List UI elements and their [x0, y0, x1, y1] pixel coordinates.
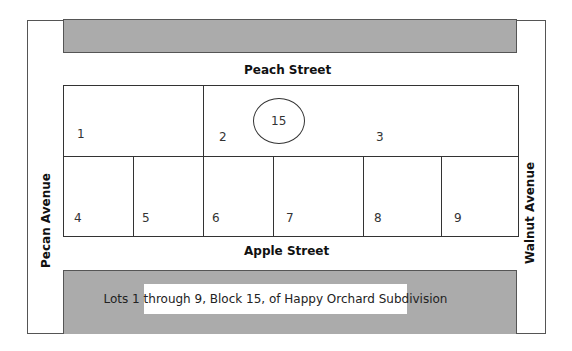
lot-divider-8-9 — [441, 156, 442, 236]
lot-4: 4 — [74, 211, 82, 225]
lot-divider-5-6 — [203, 156, 204, 236]
subdivision-caption: Lots 1 through 9, Block 15, of Happy Orc… — [144, 284, 407, 314]
lot-8: 8 — [374, 211, 382, 225]
lot-divider-4-5 — [133, 156, 134, 236]
block-number: 15 — [271, 114, 286, 128]
north-adjacent-block — [63, 19, 517, 53]
lot-6: 6 — [212, 211, 220, 225]
caption-text: Lots 1 through 9, Block 15, of Happy Orc… — [104, 292, 448, 306]
lot-7: 7 — [286, 211, 294, 225]
lot-9: 9 — [454, 211, 462, 225]
lot-5: 5 — [142, 211, 150, 225]
lot-divider-7-8 — [363, 156, 364, 236]
street-label-north: Peach Street — [244, 63, 331, 77]
lot-1: 1 — [77, 127, 85, 141]
street-label-west: Pecan Avenue — [39, 178, 53, 268]
lot-3: 3 — [376, 130, 384, 144]
lot-divider-6-7 — [273, 156, 274, 236]
street-label-south: Apple Street — [244, 244, 329, 258]
lot-2: 2 — [219, 130, 227, 144]
street-label-east: Walnut Avenue — [523, 172, 537, 264]
lot-divider-1-2 — [203, 85, 204, 157]
lot-divider-horizontal — [63, 156, 519, 157]
